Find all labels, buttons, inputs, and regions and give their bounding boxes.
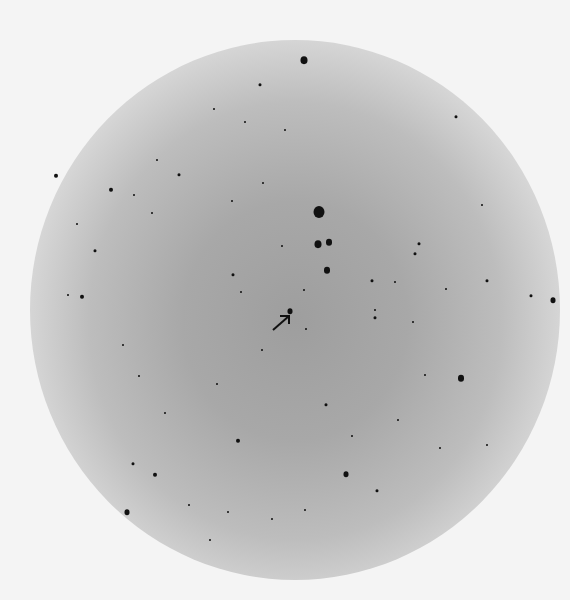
star (344, 471, 349, 477)
arrow-icon (271, 312, 293, 332)
star (54, 174, 58, 178)
star (551, 297, 556, 303)
star (326, 239, 332, 246)
star (301, 56, 308, 64)
star (324, 267, 330, 274)
star-field-plate (0, 0, 570, 600)
star (314, 206, 325, 218)
star (315, 240, 322, 248)
star (458, 375, 464, 382)
central-glow (30, 40, 560, 580)
star (125, 509, 130, 515)
